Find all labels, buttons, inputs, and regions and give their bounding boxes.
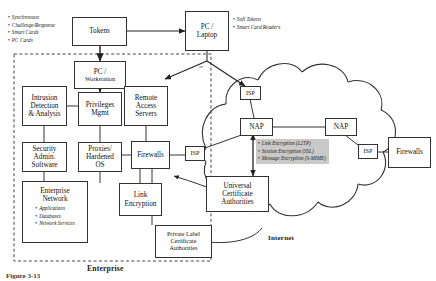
node-proxies-hardened-os[interactable]: Proxies/ Hardened OS [78, 142, 122, 172]
node-isp-top-line: ISP [246, 90, 255, 97]
node-privileges-line: Mgmt [91, 109, 109, 117]
token-type-item: Challenge/Response [8, 22, 55, 30]
node-link-encryption-line: Encryption [125, 200, 157, 208]
node-isp-right-line: ISP [364, 148, 373, 155]
enterprise-network-item: Network Services [35, 220, 74, 227]
node-remote-access-line: Remote [135, 94, 157, 102]
node-private-label-ca[interactable]: Private Label Certificate Authorities [155, 225, 212, 258]
node-tokens[interactable]: Tokens [72, 17, 127, 46]
node-security-admin-software[interactable]: Security Admin. Software [22, 142, 67, 172]
node-isp-right[interactable]: ISP [358, 144, 378, 159]
edge-laptop-to-isp [207, 61, 245, 86]
node-universal-ca[interactable]: Universal Certificate Authorities [206, 176, 269, 212]
token-type-item: PC Cards [8, 37, 55, 45]
node-remote-access-line: Servers [135, 110, 157, 118]
node-intrusion-line: Intrusion [32, 94, 58, 102]
token-type-item: Smart Cards [8, 29, 55, 37]
node-pc-laptop[interactable]: PC / Laptop [185, 11, 229, 51]
node-nap-left-line: NAP [249, 123, 263, 131]
node-nap-left[interactable]: NAP [240, 118, 273, 136]
node-nap-right-line: NAP [334, 123, 348, 131]
node-proxies-line: OS [95, 161, 104, 169]
figure-number-caption: Figure 3-13 [6, 272, 40, 281]
node-universal-ca-line: Authorities [221, 198, 253, 206]
node-nap-right[interactable]: NAP [325, 118, 357, 136]
encryption-layer-item: Link Encryption (L2TP) [258, 140, 326, 148]
node-link-encryption[interactable]: Link Encryption [119, 183, 162, 216]
node-isp-top[interactable]: ISP [240, 86, 261, 100]
laptop-token-item: Smart Card Readers [233, 24, 280, 32]
node-pc-laptop-line: Laptop [197, 31, 217, 39]
enterprise-network-item: Applications [35, 205, 74, 212]
node-enterprise-network-line: Enterprise [40, 187, 70, 195]
node-link-encryption-line: Link [134, 191, 148, 199]
node-enterprise-network-line: Network [42, 195, 67, 203]
node-intrusion-line: & Analysis [28, 110, 60, 118]
node-firewalls-right[interactable]: Firewalls [388, 137, 431, 168]
node-pc-workstation-line: Workstation [85, 76, 115, 83]
node-tokens-line: Tokens [89, 27, 110, 35]
node-intrusion-line: Detection [31, 102, 59, 110]
enterprise-network-items: Applications Databases Network Services [35, 205, 74, 227]
or-label: or [199, 64, 203, 69]
node-proxies-line: Hardened [86, 153, 114, 161]
internet-label: Internet [268, 234, 294, 242]
node-security-admin-line: Security [33, 145, 57, 153]
network-security-diagram: Synchronous Challenge/Response Smart Car… [0, 0, 436, 281]
edge-isptop-napleft [250, 99, 254, 118]
node-firewalls-center-line: Firewalls [137, 151, 164, 159]
node-enterprise-network[interactable]: Enterprise Network Applications Database… [22, 181, 88, 243]
node-remote-access-servers[interactable]: Remote Access Servers [124, 86, 168, 126]
node-security-admin-line: Admin. [34, 153, 56, 161]
node-firewalls-center[interactable]: Firewalls [131, 141, 170, 169]
node-universal-ca-line: Universal [224, 182, 252, 190]
token-type-item: Synchronous [8, 14, 55, 22]
node-proxies-line: Proxies/ [88, 145, 112, 153]
laptop-token-item: Soft Tokens [233, 16, 280, 24]
node-pc-workstation[interactable]: PC / Workstation [74, 61, 126, 89]
node-remote-access-line: Access [136, 102, 156, 110]
encryption-layers-callout: Link Encryption (L2TP) Session Encryptio… [256, 139, 329, 164]
node-private-label-ca-line: Authorities [170, 245, 198, 252]
node-pc-laptop-line: PC / [201, 23, 214, 31]
node-privileges-line: Privileges [86, 101, 115, 109]
encryption-layer-item: Session Encryption (SSL) [258, 148, 326, 156]
node-universal-ca-line: Certificate [222, 190, 252, 198]
enterprise-network-item: Databases [35, 213, 74, 220]
laptop-token-list: Soft Tokens Smart Card Readers [233, 16, 280, 31]
node-firewalls-right-line: Firewalls [396, 148, 423, 156]
node-security-admin-line: Software [32, 161, 58, 169]
encryption-layer-item: Message Encryption (S-MIME) [258, 155, 326, 163]
token-types-list: Synchronous Challenge/Response Smart Car… [8, 14, 55, 44]
node-isp-left[interactable]: ISP [185, 146, 205, 161]
node-intrusion-detection[interactable]: Intrusion Detection & Analysis [22, 86, 67, 126]
edge-napright-ispright [345, 135, 358, 145]
enterprise-caption: Enterprise [87, 264, 124, 273]
node-isp-left-line: ISP [191, 150, 200, 157]
node-privileges-mgmt[interactable]: Privileges Mgmt [78, 92, 122, 126]
